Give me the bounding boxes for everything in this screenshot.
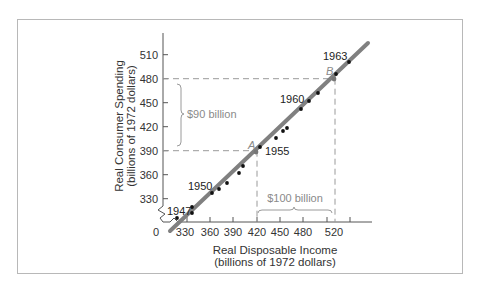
svg-text:480: 480: [294, 226, 312, 238]
svg-text:Real Disposable Income: Real Disposable Income: [213, 244, 338, 256]
svg-text:450: 450: [271, 226, 289, 238]
svg-text:480: 480: [140, 73, 158, 85]
svg-text:390: 390: [140, 145, 158, 157]
svg-text:450: 450: [140, 97, 158, 109]
year-label-1960: 1960: [280, 93, 304, 105]
point-b-marker: [332, 77, 337, 82]
delta-x-brace: [258, 207, 332, 213]
year-label-1955: 1955: [265, 145, 289, 157]
year-label-1963: 1963: [323, 50, 347, 62]
svg-text:330: 330: [176, 226, 194, 238]
point-b-label: B: [326, 65, 333, 77]
delta-x-label: $100 billion: [267, 192, 323, 204]
delta-y-label: $90 billion: [187, 108, 237, 120]
consumption-function-chart: 330 360 390 420 450 480 510 330 360 390 …: [0, 0, 482, 293]
point-a-label: A: [247, 139, 255, 151]
svg-text:Real Consumer Spending: Real Consumer Spending: [113, 60, 125, 192]
x-ticks: [187, 217, 350, 222]
svg-text:360: 360: [201, 226, 219, 238]
svg-text:520: 520: [325, 226, 343, 238]
svg-text:(billions of 1972 dollars): (billions of 1972 dollars): [125, 65, 137, 187]
svg-text:510: 510: [140, 49, 158, 61]
y-axis-title: Real Consumer Spending (billions of 1972…: [113, 60, 137, 192]
delta-y-brace: [177, 84, 184, 146]
y-ticks: [163, 55, 168, 199]
svg-text:(billions of 1972 dollars): (billions of 1972 dollars): [214, 256, 336, 268]
svg-text:390: 390: [224, 226, 242, 238]
svg-text:330: 330: [140, 193, 158, 205]
origin-label: 0: [153, 226, 159, 238]
svg-text:360: 360: [140, 169, 158, 181]
svg-text:420: 420: [140, 121, 158, 133]
year-label-1950: 1950: [188, 180, 212, 192]
x-axis-title: Real Disposable Income (billions of 1972…: [213, 244, 338, 268]
year-label-1947: 1947: [167, 205, 191, 217]
y-tick-labels: 330 360 390 420 450 480 510: [140, 49, 158, 205]
x-tick-labels: 330 360 390 420 450 480 520: [176, 226, 343, 238]
svg-text:420: 420: [248, 226, 266, 238]
